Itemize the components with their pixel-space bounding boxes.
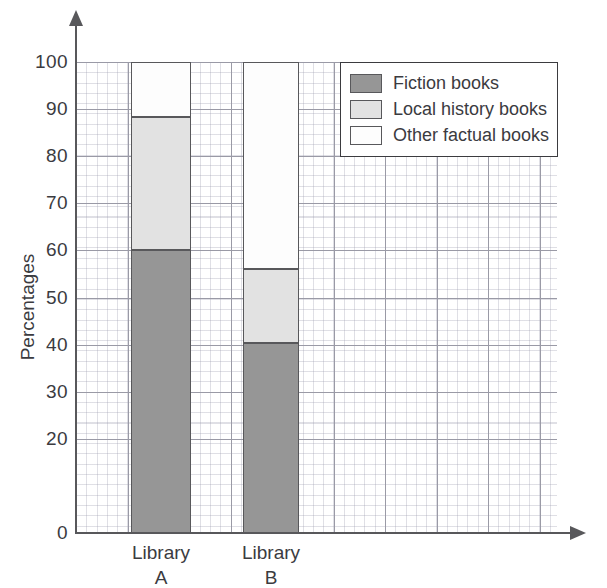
legend-swatch-other-factual-icon	[350, 126, 382, 145]
arrow-right-icon	[570, 526, 586, 540]
legend-label: Other factual books	[393, 125, 549, 146]
arrow-up-icon	[69, 10, 83, 26]
legend-item: Local history books	[350, 96, 548, 122]
bar-segment-local-history	[243, 269, 299, 343]
legend: Fiction books Local history books Other …	[340, 62, 558, 157]
y-tick-label: 80	[6, 146, 68, 165]
x-tick-label: Library B	[201, 540, 341, 588]
bar-chart: 02030405060708090100 Percentages Library…	[0, 0, 607, 588]
legend-swatch-local-history-icon	[350, 100, 382, 119]
bar-segment-other-factual	[131, 62, 191, 117]
legend-item: Other factual books	[350, 122, 548, 148]
legend-label: Local history books	[393, 99, 547, 120]
y-tick-label: 90	[6, 99, 68, 118]
y-axis-line	[75, 22, 77, 534]
bar-segment-fiction	[131, 250, 191, 533]
bar-segment-local-history	[131, 117, 191, 250]
legend-swatch-fiction-icon	[350, 74, 382, 93]
bar-stack	[131, 62, 191, 533]
y-tick-label: 20	[6, 429, 68, 448]
legend-label: Fiction books	[393, 73, 499, 94]
bar-segment-fiction	[243, 343, 299, 533]
y-tick-label: 100	[6, 52, 68, 71]
y-tick-label: 0	[6, 523, 68, 542]
legend-item: Fiction books	[350, 70, 548, 96]
y-axis-title: Percentages	[17, 207, 39, 407]
bar-stack	[243, 62, 299, 533]
bar-segment-other-factual	[243, 62, 299, 269]
